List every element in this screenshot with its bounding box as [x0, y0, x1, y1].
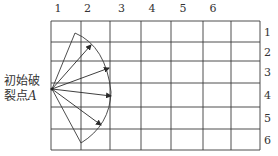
row-label: 3 — [264, 66, 271, 79]
row-label: 6 — [264, 134, 271, 147]
grid — [51, 21, 260, 150]
column-label: 2 — [82, 2, 94, 15]
column-label: 4 — [146, 2, 158, 15]
row-label: 5 — [264, 112, 271, 125]
column-label: 1 — [52, 2, 64, 15]
origin-point — [50, 87, 53, 90]
row-label: 2 — [264, 46, 271, 59]
propagation-arrow — [52, 68, 109, 89]
row-label: 4 — [264, 89, 271, 102]
label-line-2: 裂点A — [4, 89, 40, 104]
label-line-1: 初始破 — [4, 74, 40, 89]
column-label: 5 — [177, 2, 189, 15]
propagation-arrow — [52, 45, 91, 89]
point-symbol: A — [28, 89, 37, 103]
fracture-grid-diagram — [0, 0, 278, 156]
column-label: 6 — [207, 2, 219, 15]
arrows — [52, 45, 111, 125]
sector — [52, 33, 111, 143]
initial-fracture-point-label: 初始破 裂点A — [4, 74, 40, 104]
row-label: 1 — [264, 26, 271, 39]
column-label: 3 — [116, 2, 128, 15]
label-line-2-text: 裂点 — [4, 89, 28, 103]
sector-outline — [52, 33, 111, 143]
